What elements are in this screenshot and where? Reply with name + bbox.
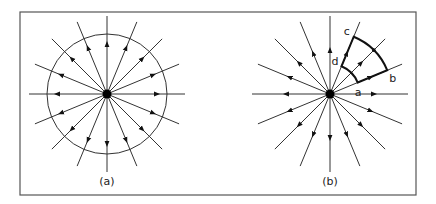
label-a: a bbox=[355, 86, 362, 99]
label-c: c bbox=[344, 25, 350, 38]
label-d: d bbox=[331, 55, 338, 68]
electric-field-figure: (a) (b) a b c d bbox=[0, 0, 436, 204]
field-line bbox=[52, 39, 107, 94]
field-line bbox=[275, 39, 330, 94]
field-line bbox=[107, 39, 162, 94]
figure-frame bbox=[20, 12, 416, 195]
point-charge bbox=[103, 90, 112, 99]
field-line bbox=[330, 94, 385, 149]
field-line bbox=[52, 94, 107, 149]
field-line bbox=[275, 94, 330, 149]
panel-b-radial-field-with-surface bbox=[252, 16, 408, 172]
panel-a-radial-field bbox=[29, 16, 185, 172]
label-b: b bbox=[389, 72, 396, 85]
point-charge bbox=[326, 90, 335, 99]
field-line bbox=[107, 94, 162, 149]
caption-a: (a) bbox=[99, 175, 114, 188]
caption-b: (b) bbox=[322, 175, 338, 188]
surface-crossing-dot bbox=[372, 48, 376, 52]
